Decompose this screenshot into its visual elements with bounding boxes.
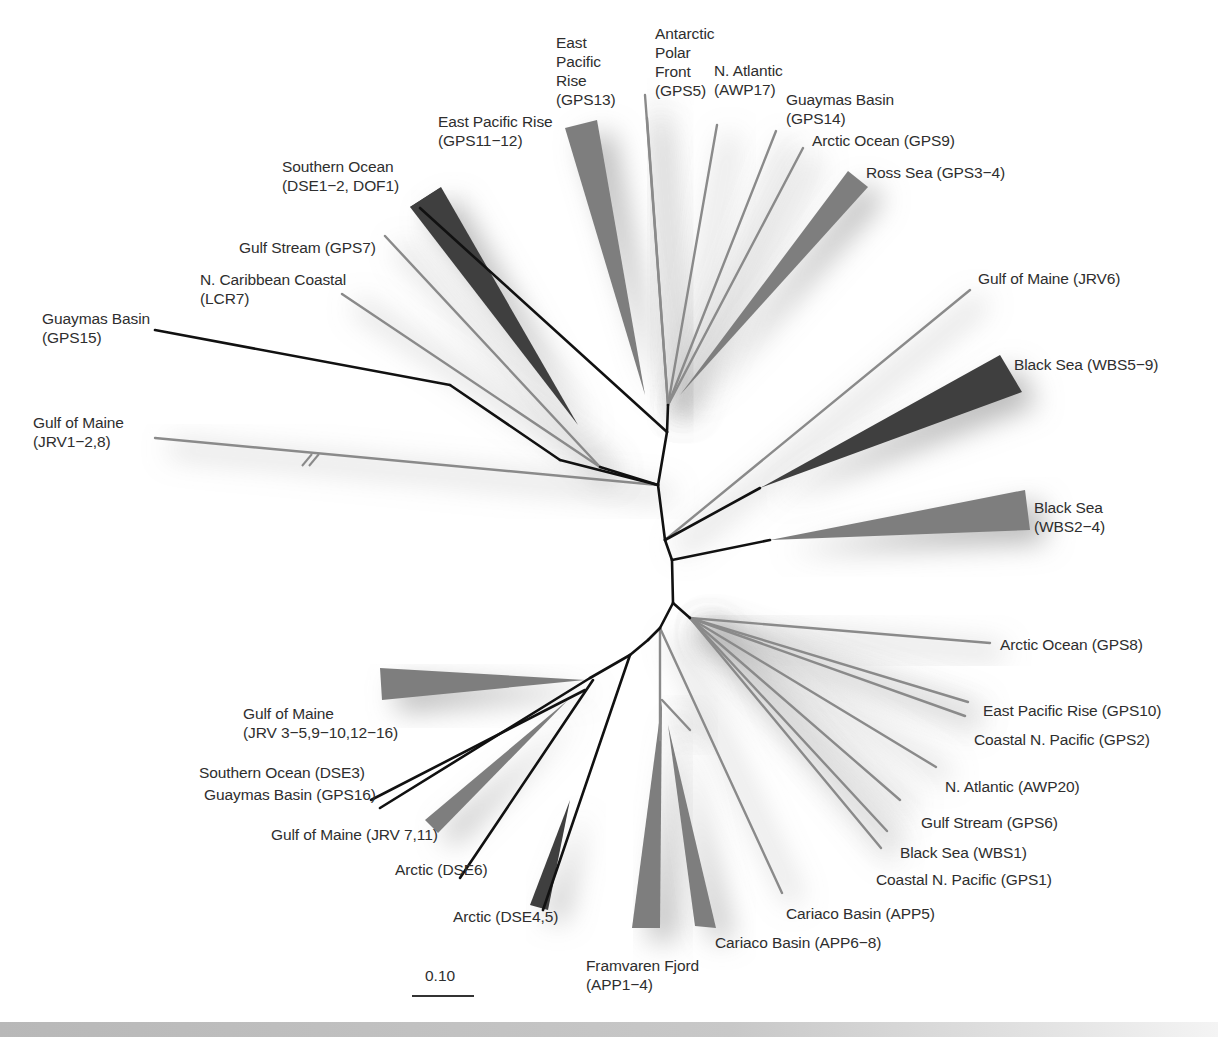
backbone-branch — [660, 603, 673, 628]
taxon-label: Gulf Stream (GPS7) — [239, 238, 376, 257]
taxon-label: Gulf of Maine (JRV 3−5,9−10,12−16) — [243, 704, 398, 742]
taxon-label: Ross Sea (GPS3−4) — [866, 163, 1005, 182]
taxon-label: Gulf of Maine (JRV1−2,8) — [33, 413, 124, 451]
taxon-label: N. Caribbean Coastal (LCR7) — [200, 270, 346, 308]
taxon-label: Framvaren Fjord (APP1−4) — [586, 956, 699, 994]
taxon-label: Black Sea (WBS1) — [900, 843, 1027, 862]
taxon-label: Arctic (DSE4,5) — [453, 907, 558, 926]
taxon-label: Southern Ocean (DSE3) — [199, 763, 365, 782]
backbone-branch — [667, 405, 668, 432]
taxon-label: Cariaco Basin (APP6−8) — [715, 933, 881, 952]
taxon-label: East Pacific Rise (GPS11−12) — [438, 112, 553, 150]
taxon-label: Coastal N. Pacific (GPS1) — [876, 870, 1052, 889]
backbone-branch — [648, 628, 660, 640]
taxon-label: Arctic Ocean (GPS9) — [812, 131, 955, 150]
taxon-label: N. Atlantic (AWP20) — [945, 777, 1079, 796]
taxon-label: Guaymas Basin (GPS16) — [204, 785, 376, 804]
scale-bar — [412, 995, 474, 997]
taxon-label: Gulf of Maine (JRV6) — [978, 269, 1120, 288]
taxon-label: Coastal N. Pacific (GPS2) — [974, 730, 1150, 749]
taxon-label: East Pacific Rise (GPS10) — [983, 701, 1161, 720]
taxon-label: Guaymas Basin (GPS15) — [42, 309, 150, 347]
backbone-branch — [672, 560, 673, 603]
taxon-label: Arctic (DSE6) — [395, 860, 488, 879]
backbone-branch — [665, 540, 672, 560]
taxon-label: Gulf Stream (GPS6) — [921, 813, 1058, 832]
taxon-label: Black Sea (WBS5−9) — [1014, 355, 1158, 374]
taxon-label: Black Sea (WBS2−4) — [1034, 498, 1105, 536]
taxon-label: N. Atlantic (AWP17) — [714, 61, 783, 99]
taxon-label: East Pacific Rise (GPS13) — [556, 33, 616, 109]
taxon-label: Gulf of Maine (JRV 7,11) — [271, 825, 438, 844]
bottom-gradient-band — [0, 1022, 1218, 1037]
taxon-label: Antarctic Polar Front (GPS5) — [655, 24, 714, 100]
taxon-label: Cariaco Basin (APP5) — [786, 904, 935, 923]
clade-framvaren-fjord-app1-4 — [632, 700, 662, 928]
taxon-label: Southern Ocean (DSE1−2, DOF1) — [282, 157, 399, 195]
backbone-branch — [658, 432, 667, 485]
taxon-label: Arctic Ocean (GPS8) — [1000, 635, 1143, 654]
backbone-branch — [673, 603, 690, 618]
backbone-branch — [630, 640, 648, 655]
taxon-label: Guaymas Basin (GPS14) — [786, 90, 894, 128]
scale-bar-label: 0.10 — [425, 967, 455, 985]
